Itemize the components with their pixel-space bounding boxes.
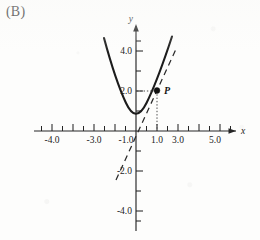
y-tick-label--2: -2.0	[117, 166, 132, 176]
x-axis-arrow	[229, 128, 237, 134]
x-tick-label--3: -3.0	[86, 135, 101, 145]
x-tick-label--4: -4.0	[44, 135, 59, 145]
point-p-label: P	[164, 85, 171, 96]
tangent-line	[116, 49, 176, 180]
coordinate-plot: -4.0 -3.0 -1.0 1.0 3.0 5.0 x	[0, 0, 260, 240]
x-axis-label: x	[240, 126, 246, 136]
y-tick-label-4: 4.0	[120, 46, 132, 56]
parabola-curve	[104, 37, 172, 114]
x-tick-label-1: 1.0	[151, 135, 163, 145]
y-axis-arrow	[133, 24, 139, 32]
x-tick-label--1: -1.0	[118, 135, 133, 145]
figure-root: (B)	[0, 0, 260, 240]
y-axis-label: y	[128, 14, 134, 24]
x-tick-label-3: 3.0	[172, 135, 184, 145]
y-tick-label--4: -4.0	[117, 206, 132, 216]
x-tick-label-5: 5.0	[209, 135, 221, 145]
y-axis: 4.0 2.0 -2.0 -4.0 y	[117, 14, 143, 231]
point-p-marker	[154, 88, 160, 94]
